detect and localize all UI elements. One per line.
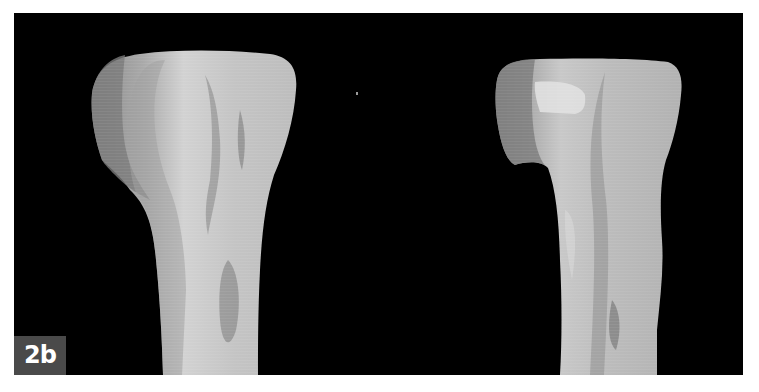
figure-label: 2b [14, 336, 66, 375]
right-bone [496, 58, 682, 375]
left-bone [92, 51, 297, 375]
artifact-dot [356, 92, 358, 95]
image-panel [14, 13, 743, 375]
bone-renderings [14, 13, 743, 375]
figure-label-text: 2b [24, 341, 56, 369]
